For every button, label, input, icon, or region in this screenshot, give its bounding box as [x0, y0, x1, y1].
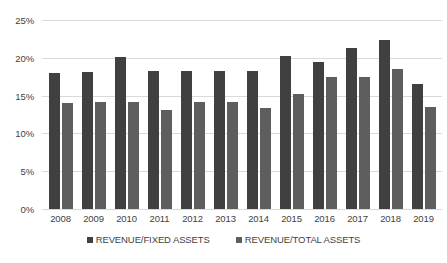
bar-2012-series-1[interactable] — [194, 102, 205, 209]
bar-group-2018 — [374, 20, 407, 209]
bar-2011-series-0[interactable] — [148, 71, 159, 209]
bar-2016-series-0[interactable] — [313, 62, 324, 209]
bar-2014-series-0[interactable] — [247, 71, 258, 209]
bar-group-2012 — [176, 20, 209, 209]
bar-2018-series-0[interactable] — [379, 40, 390, 209]
legend-swatch-icon — [87, 237, 93, 243]
y-tick-label: 15% — [15, 90, 34, 101]
plot-area — [42, 20, 442, 209]
y-tick-label: 20% — [15, 52, 34, 63]
bar-2015-series-0[interactable] — [280, 56, 291, 209]
legend-swatch-icon — [236, 237, 242, 243]
x-axis: 2008200920102011201220132014201520162017… — [42, 211, 442, 229]
bar-2015-series-1[interactable] — [293, 94, 304, 209]
bar-group-2009 — [77, 20, 110, 209]
bar-2014-series-1[interactable] — [260, 108, 271, 209]
y-tick-label: 10% — [15, 128, 34, 139]
bar-2010-series-0[interactable] — [115, 57, 126, 209]
bar-group-2014 — [242, 20, 275, 209]
x-tick-label-2011: 2011 — [143, 211, 176, 229]
bar-chart: 0%5%10%15%20%25% 20082009201020112012201… — [0, 0, 447, 263]
bar-group-2010 — [110, 20, 143, 209]
bar-2019-series-1[interactable] — [425, 107, 436, 209]
y-tick-label: 5% — [20, 166, 34, 177]
bar-2010-series-1[interactable] — [128, 102, 139, 209]
x-tick-label-2008: 2008 — [44, 211, 77, 229]
bar-2018-series-1[interactable] — [392, 69, 403, 209]
y-tick-label: 25% — [15, 15, 34, 26]
x-tick-label-2012: 2012 — [176, 211, 209, 229]
bar-group-2013 — [209, 20, 242, 209]
bar-2008-series-0[interactable] — [49, 73, 60, 209]
x-tick-label-2009: 2009 — [77, 211, 110, 229]
bar-2009-series-1[interactable] — [95, 102, 106, 209]
bar-group-2011 — [143, 20, 176, 209]
bar-2008-series-1[interactable] — [62, 103, 73, 209]
bar-group-2016 — [308, 20, 341, 209]
bar-2012-series-0[interactable] — [181, 71, 192, 209]
bar-2011-series-1[interactable] — [161, 110, 172, 209]
x-tick-label-2014: 2014 — [242, 211, 275, 229]
bar-2009-series-0[interactable] — [82, 72, 93, 209]
x-tick-label-2010: 2010 — [110, 211, 143, 229]
legend-item-0[interactable]: REVENUE/FIXED ASSETS — [87, 234, 210, 245]
x-tick-label-2016: 2016 — [308, 211, 341, 229]
bar-group-2008 — [44, 20, 77, 209]
bar-2019-series-0[interactable] — [412, 84, 423, 209]
bar-2017-series-1[interactable] — [359, 77, 370, 209]
y-tick-label: 0% — [20, 204, 34, 215]
bar-2016-series-1[interactable] — [326, 77, 337, 209]
legend-label: REVENUE/FIXED ASSETS — [96, 234, 210, 245]
chart-legend: REVENUE/FIXED ASSETSREVENUE/TOTAL ASSETS — [0, 234, 447, 245]
bar-2013-series-0[interactable] — [214, 71, 225, 209]
x-tick-label-2017: 2017 — [341, 211, 374, 229]
bar-group-2015 — [275, 20, 308, 209]
x-tick-label-2013: 2013 — [209, 211, 242, 229]
bar-group-2019 — [407, 20, 440, 209]
gridline-0% — [42, 209, 442, 210]
bar-group-2017 — [341, 20, 374, 209]
x-tick-label-2018: 2018 — [374, 211, 407, 229]
bars-layer — [42, 20, 442, 209]
x-tick-label-2019: 2019 — [407, 211, 440, 229]
legend-item-1[interactable]: REVENUE/TOTAL ASSETS — [236, 234, 361, 245]
bar-2017-series-0[interactable] — [346, 48, 357, 209]
bar-2013-series-1[interactable] — [227, 102, 238, 209]
legend-label: REVENUE/TOTAL ASSETS — [245, 234, 361, 245]
y-axis: 0%5%10%15%20%25% — [0, 0, 40, 263]
x-tick-label-2015: 2015 — [275, 211, 308, 229]
